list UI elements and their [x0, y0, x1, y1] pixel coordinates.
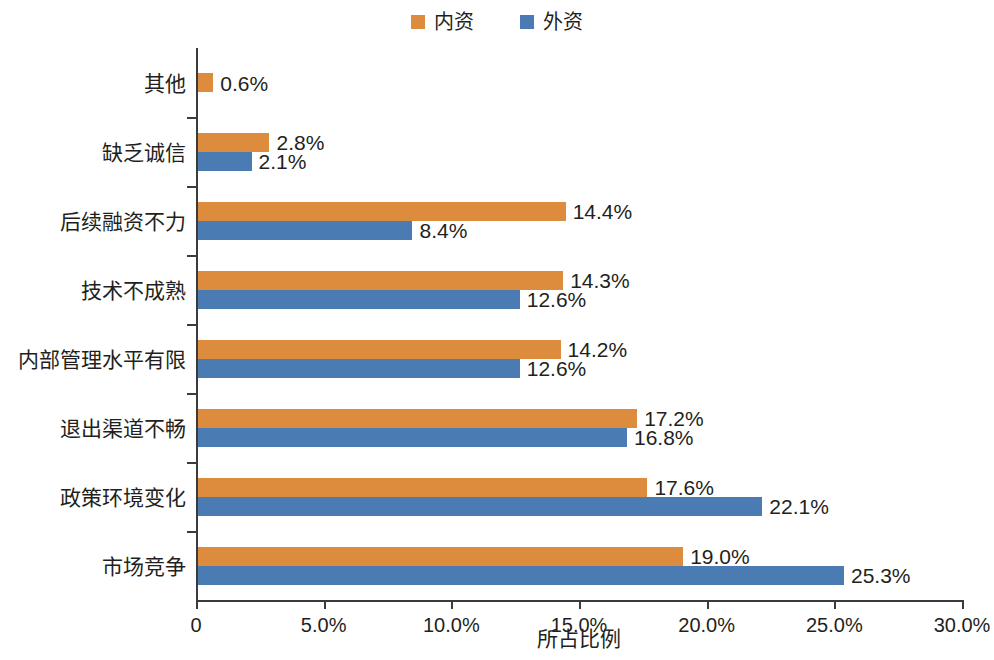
- y-axis-category-label: 内部管理水平有限: [18, 348, 186, 369]
- y-axis-category-label: 市场竞争: [102, 555, 186, 576]
- x-axis-tick: [707, 600, 709, 609]
- legend-label-outer: 外资: [543, 12, 583, 32]
- y-axis-category-label: 后续融资不力: [60, 210, 186, 231]
- bar-outer: [198, 152, 252, 171]
- bar-value-label-inner: 14.4%: [573, 202, 633, 221]
- y-axis-tick: [187, 255, 196, 257]
- x-axis-tick: [196, 600, 198, 609]
- bar-inner: [198, 547, 683, 566]
- bar-value-label-outer: 2.1%: [259, 152, 307, 171]
- bar-inner: [198, 409, 637, 428]
- y-axis-category-label: 缺乏诚信: [102, 141, 186, 162]
- legend-swatch-inner-icon: [411, 15, 425, 29]
- legend-label-inner: 内资: [434, 12, 474, 32]
- legend-entry-inner: 内资: [411, 12, 474, 32]
- y-axis-category-label: 其他: [144, 72, 186, 93]
- y-axis-tick: [187, 324, 196, 326]
- bar-value-label-outer: 16.8%: [634, 428, 694, 447]
- y-axis-category-label: 技术不成熟: [81, 279, 186, 300]
- y-axis-category-label: 政策环境变化: [60, 486, 186, 507]
- x-axis-tick: [834, 600, 836, 609]
- y-axis-tick: [187, 117, 196, 119]
- bar-value-label-inner: 19.0%: [690, 547, 750, 566]
- bar-outer: [198, 290, 520, 309]
- bar-chart: 内资 外资 其他缺乏诚信后续融资不力技术不成熟内部管理水平有限退出渠道不畅政策环…: [0, 0, 994, 660]
- bar-inner: [198, 340, 561, 359]
- y-axis-line: [196, 48, 198, 600]
- bar-outer: [198, 497, 762, 516]
- bar-outer: [198, 566, 844, 585]
- y-axis-tick: [187, 462, 196, 464]
- x-axis-tick: [579, 600, 581, 609]
- bar-value-label-outer: 22.1%: [769, 497, 829, 516]
- chart-legend: 内资 外资: [0, 12, 994, 32]
- y-axis-labels: 其他缺乏诚信后续融资不力技术不成熟内部管理水平有限退出渠道不畅政策环境变化市场竞…: [0, 48, 186, 600]
- legend-swatch-outer-icon: [520, 15, 534, 29]
- x-axis-tick: [324, 600, 326, 609]
- bar-value-label-inner: 17.6%: [654, 478, 714, 497]
- bar-outer: [198, 221, 412, 240]
- legend-entry-outer: 外资: [520, 12, 583, 32]
- x-axis-tick: [451, 600, 453, 609]
- bar-value-label-outer: 8.4%: [419, 221, 467, 240]
- bar-inner: [198, 478, 647, 497]
- y-axis-tick: [187, 393, 196, 395]
- y-axis-tick: [187, 186, 196, 188]
- bar-inner: [198, 202, 566, 221]
- bar-value-label-inner: 0.6%: [220, 73, 268, 92]
- bar-value-label-outer: 12.6%: [527, 290, 587, 309]
- plot-area: 05.0%10.0%15.0%20.0%25.0%30.0% 0.6%2.8%2…: [196, 48, 962, 600]
- x-axis-tick: [962, 600, 964, 609]
- bar-value-label-outer: 25.3%: [851, 566, 911, 585]
- y-axis-category-label: 退出渠道不畅: [60, 417, 186, 438]
- bar-outer: [198, 428, 627, 447]
- x-axis-title: 所占比例: [196, 628, 962, 650]
- bar-outer: [198, 359, 520, 378]
- bar-inner: [198, 73, 213, 92]
- bar-inner: [198, 271, 563, 290]
- y-axis-tick: [187, 531, 196, 533]
- bar-value-label-outer: 12.6%: [527, 359, 587, 378]
